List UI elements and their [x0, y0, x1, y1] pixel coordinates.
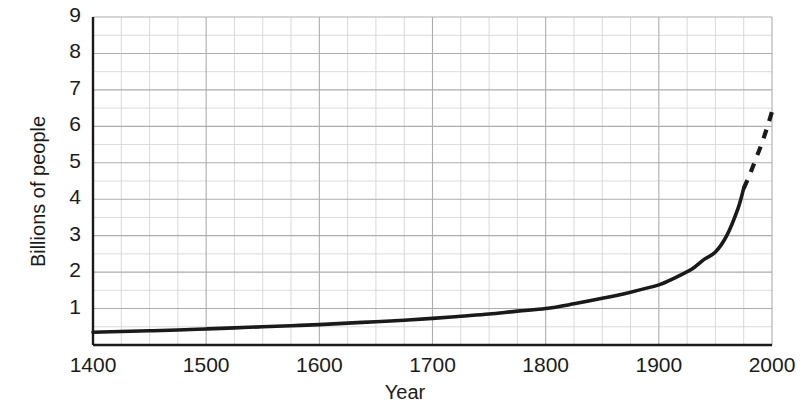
- x-tick-label: 1400: [48, 353, 138, 377]
- population-growth-chart: 123456789 1400150016001700180019002000 B…: [0, 0, 810, 414]
- chart-canvas: [0, 0, 810, 414]
- x-tick-label: 1600: [274, 353, 364, 377]
- x-tick-label: 1900: [614, 353, 704, 377]
- x-tick-label: 2000: [727, 353, 810, 377]
- x-axis-title: Year: [345, 381, 465, 404]
- x-tick-label: 1700: [388, 353, 478, 377]
- y-axis-title: Billions of people: [27, 92, 50, 292]
- y-tick-label: 8: [41, 39, 81, 63]
- y-tick-label: 9: [41, 3, 81, 27]
- population-curve-solid: [93, 188, 744, 332]
- y-tick-label: 1: [41, 295, 81, 319]
- x-tick-label: 1500: [161, 353, 251, 377]
- x-tick-label: 1800: [501, 353, 591, 377]
- population-curve-projection: [744, 112, 772, 189]
